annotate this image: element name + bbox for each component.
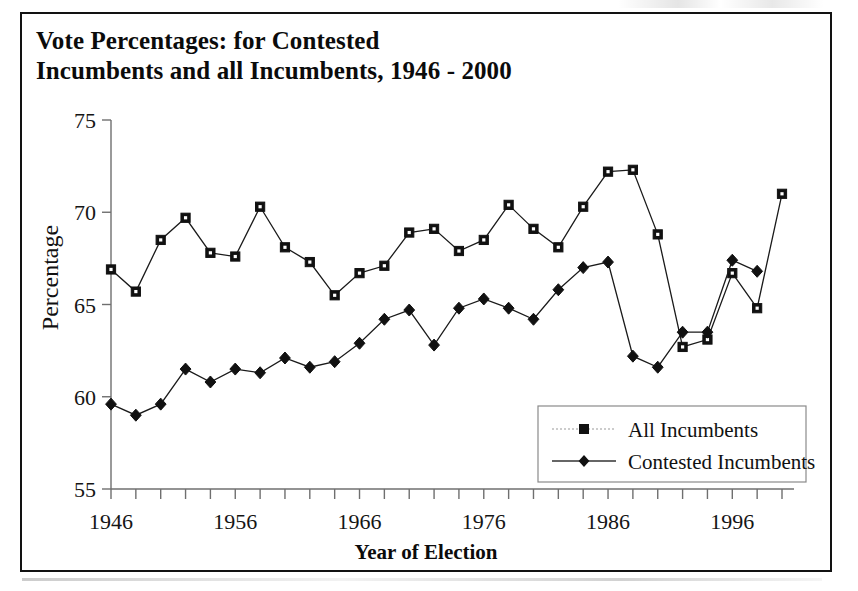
marker-square-center [780, 192, 783, 195]
marker-diamond [404, 304, 415, 316]
marker-diamond [429, 339, 440, 351]
marker-square-center [358, 272, 361, 275]
marker-square-center [184, 216, 187, 219]
marker-square-center [432, 227, 435, 230]
marker-diamond [230, 363, 241, 375]
marker-square-center [507, 203, 510, 206]
marker-square-center [606, 170, 609, 173]
marker-diamond [503, 302, 514, 314]
marker-square-center [681, 345, 684, 348]
marker-diamond [205, 376, 216, 388]
marker-diamond [280, 352, 291, 364]
marker-square-center [532, 227, 535, 230]
marker-square-center [109, 268, 112, 271]
marker-square-center [482, 238, 485, 241]
marker-square-center [557, 246, 560, 249]
scan-artifact-bottom [22, 578, 822, 581]
x-tick-label: 1966 [338, 509, 382, 534]
marker-diamond [180, 363, 191, 375]
marker-diamond [627, 350, 638, 362]
y-tick-label: 65 [74, 293, 96, 318]
scan-artifact-strip [0, 0, 858, 8]
marker-square-center [756, 307, 759, 310]
line-chart: 7570656055194619561966197619861996All In… [22, 14, 830, 570]
marker-diamond [454, 302, 465, 314]
marker-square-center [408, 231, 411, 234]
marker-diamond [155, 398, 166, 410]
marker-square-center [234, 255, 237, 258]
figure-frame: Vote Percentages: for Contested Incumben… [20, 12, 832, 572]
plot-area: 7570656055194619561966197619861996All In… [22, 14, 830, 570]
marker-square-center [209, 251, 212, 254]
y-tick-label: 70 [74, 200, 96, 225]
y-tick-label: 75 [74, 108, 96, 133]
marker-diamond [304, 361, 315, 373]
marker-square-center [731, 272, 734, 275]
marker-square-center [333, 294, 336, 297]
marker-square-center [159, 238, 162, 241]
marker-diamond [255, 367, 266, 379]
marker-diamond [603, 256, 614, 268]
x-tick-label: 1946 [89, 509, 133, 534]
legend-label-2: Contested Incumbents [628, 450, 815, 474]
x-axis-title: Year of Election [22, 540, 830, 565]
marker-diamond [329, 356, 340, 368]
y-tick-label: 55 [74, 477, 96, 502]
marker-diamond [752, 265, 763, 277]
marker-square-center [134, 290, 137, 293]
y-axis-title: Percentage [37, 188, 64, 368]
marker-square-center [457, 249, 460, 252]
marker-square-center [656, 233, 659, 236]
series-line-2 [111, 260, 757, 415]
x-tick-label: 1986 [586, 509, 630, 534]
marker-diamond [478, 293, 489, 305]
marker-diamond [106, 398, 117, 410]
legend-label-1: All Incumbents [628, 418, 758, 442]
marker-square-center [582, 205, 585, 208]
marker-square-center [283, 246, 286, 249]
marker-diamond [130, 409, 141, 421]
marker-diamond [727, 254, 738, 266]
y-tick-label: 60 [74, 385, 96, 410]
legend-marker-square [579, 424, 589, 434]
marker-square-center [308, 260, 311, 263]
marker-square-center [259, 205, 262, 208]
x-tick-label: 1996 [710, 509, 754, 534]
series-line-1 [111, 170, 782, 347]
marker-diamond [652, 361, 663, 373]
marker-square-center [383, 264, 386, 267]
marker-square-center [631, 168, 634, 171]
x-tick-label: 1976 [462, 509, 506, 534]
x-tick-label: 1956 [213, 509, 257, 534]
